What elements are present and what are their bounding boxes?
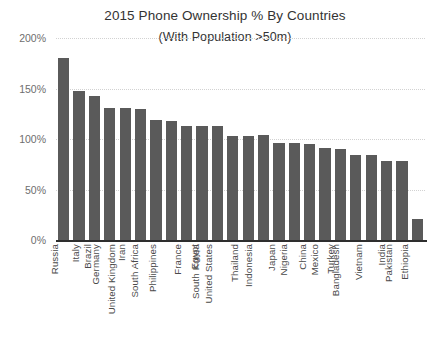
bar[interactable]: [366, 155, 377, 240]
chart-title: 2015 Phone Ownership % By Countries: [60, 8, 390, 23]
y-axis-tick-label: 150%: [19, 83, 46, 95]
x-axis-tick-label: Philippines: [147, 244, 158, 292]
y-axis: 0%50%100%150%200%: [0, 0, 52, 341]
bar-slot: [317, 38, 332, 240]
bar[interactable]: [135, 109, 146, 240]
x-axis-tick-label: Japan: [265, 244, 276, 271]
x-axis-tick-label: Russia: [49, 244, 60, 274]
bar[interactable]: [181, 126, 192, 240]
x-axis-labels: RussiaItalyBrazilGermanyIranUnited Kingd…: [56, 244, 425, 340]
bar-slot: [271, 38, 286, 240]
x-axis-tick-label: Mexico: [309, 244, 320, 275]
x-axis-tick-label: Ethiopia: [399, 244, 410, 280]
bar-slot: [133, 38, 148, 240]
x-axis-tick-label: Nigeria: [279, 244, 290, 275]
bar-slot: [71, 38, 86, 240]
x-axis-tick-label: China: [297, 244, 308, 270]
bar[interactable]: [212, 126, 223, 240]
bar-chart: 2015 Phone Ownership % By Countries (Wit…: [0, 0, 441, 341]
bar[interactable]: [196, 126, 207, 240]
x-axis-tick-label: Germany: [90, 244, 101, 285]
bar-slot: [87, 38, 102, 240]
x-axis-tick-label: United Kingdom: [105, 244, 116, 314]
bar-slot: [287, 38, 302, 240]
plot-area: [56, 38, 425, 240]
bar-slot: [379, 38, 394, 240]
bar[interactable]: [412, 219, 423, 240]
x-axis-tick-label: Indonesia: [242, 244, 253, 287]
x-axis-tick-label: Iran: [117, 244, 128, 261]
x-axis-tick-label: Italy: [70, 244, 81, 262]
bar[interactable]: [381, 161, 392, 240]
y-axis-tick-label: 200%: [19, 32, 46, 44]
bar[interactable]: [304, 144, 315, 240]
x-axis-tick-label: United States: [203, 244, 214, 303]
bar-slot: [148, 38, 163, 240]
bar-slot: [364, 38, 379, 240]
x-axis-tick: Ethiopia: [410, 244, 425, 340]
x-axis-tick-label: Vietnam: [353, 244, 364, 280]
bar-slot: [348, 38, 363, 240]
x-axis-tick-label: South Korea: [190, 244, 201, 299]
bar[interactable]: [273, 143, 284, 240]
bar-slot: [302, 38, 317, 240]
bar-slot: [410, 38, 425, 240]
x-axis-tick-label: Pakistan: [383, 244, 394, 282]
x-axis-tick-label: France: [171, 244, 182, 275]
x-axis-tick-label: Bangladesh: [330, 244, 341, 296]
bar[interactable]: [289, 143, 300, 240]
bar[interactable]: [89, 96, 100, 240]
bar-slot: [225, 38, 240, 240]
bars-layer: [56, 38, 425, 240]
bar[interactable]: [58, 58, 69, 240]
bar-slot: [333, 38, 348, 240]
bar[interactable]: [166, 121, 177, 240]
bar-slot: [210, 38, 225, 240]
y-axis-tick-label: 50%: [25, 184, 46, 196]
bar[interactable]: [120, 108, 131, 240]
y-axis-tick-label: 100%: [19, 133, 46, 145]
bar[interactable]: [335, 149, 346, 240]
bar[interactable]: [104, 108, 115, 240]
bar-slot: [56, 38, 71, 240]
bar-slot: [102, 38, 117, 240]
y-axis-tick-label: 0%: [31, 234, 46, 246]
bar-slot: [256, 38, 271, 240]
x-axis-tick-label: South Africa: [129, 244, 140, 297]
bar-slot: [179, 38, 194, 240]
bar[interactable]: [258, 135, 269, 240]
bar[interactable]: [350, 155, 361, 240]
bar[interactable]: [227, 136, 238, 240]
bar[interactable]: [243, 136, 254, 240]
bar[interactable]: [73, 91, 84, 240]
x-axis-tick-label: Thailand: [229, 244, 240, 282]
bar-slot: [164, 38, 179, 240]
bar[interactable]: [396, 161, 407, 240]
bar[interactable]: [319, 148, 330, 240]
bar[interactable]: [150, 120, 161, 240]
bar-slot: [394, 38, 409, 240]
bar-slot: [194, 38, 209, 240]
bar-slot: [241, 38, 256, 240]
x-axis-line: [56, 240, 427, 242]
bar-slot: [118, 38, 133, 240]
